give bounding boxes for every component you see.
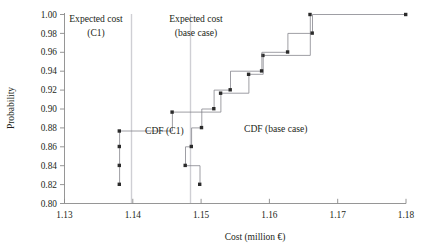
data-point [200,126,203,129]
annotation-cdf-base-case: CDF (base case) [244,123,307,135]
series-cdf-base-case [184,13,408,186]
y-tick-label: 0.92 [41,85,58,95]
annotation-expected-cost-c1-line1: Expected cost [69,13,123,24]
annotations: Expected cost (C1) Expected cost (base c… [69,13,307,137]
y-tick-labels: 0.80 0.82 0.84 0.86 0.88 0.90 0.92 0.94 … [41,10,58,209]
cdf-base-path [186,15,407,185]
x-axis-title: Cost (million €) [225,232,286,243]
y-tick-label: 0.98 [41,29,58,39]
x-tick-label: 1.16 [261,210,278,220]
data-point [404,13,407,16]
data-point [118,183,121,186]
x-tick-label: 1.14 [125,210,142,220]
cdf-c1-path [120,15,311,185]
annotation-expected-cost-base-line1: Expected cost [169,13,223,24]
y-tick-label: 0.82 [41,180,58,190]
annotation-expected-cost-base-line2: (base case) [175,27,217,39]
series-cdf-c1 [118,13,312,186]
axes-group: 0.80 0.82 0.84 0.86 0.88 0.90 0.92 0.94 … [6,10,414,243]
x-ticks [65,199,407,204]
reference-lines [132,14,191,203]
y-ticks [60,15,65,204]
data-point [286,50,289,53]
y-tick-label: 0.86 [41,142,58,152]
data-point [190,145,193,148]
data-point [247,73,250,76]
data-point [118,129,121,132]
y-tick-label: 0.90 [41,104,58,114]
y-tick-label: 0.84 [41,161,58,171]
y-tick-label: 1.00 [41,10,58,20]
y-tick-label: 0.94 [41,66,58,76]
x-tick-label: 1.17 [330,210,347,220]
data-point [198,183,201,186]
annotation-cdf-c1: CDF (C1) [145,125,184,137]
x-tick-label: 1.15 [193,210,210,220]
data-point [311,31,314,34]
x-tick-labels: 1.13 1.14 1.15 1.16 1.17 1.18 [56,210,414,220]
data-point [229,88,232,91]
x-tick-label: 1.13 [56,210,73,220]
data-point [118,164,121,167]
data-point [219,92,222,95]
cdf-step-chart: 0.80 0.82 0.84 0.86 0.88 0.90 0.92 0.94 … [0,0,424,249]
chart-figure: 0.80 0.82 0.84 0.86 0.88 0.90 0.92 0.94 … [0,0,424,249]
data-point [170,110,173,113]
y-axis-title: Probability [6,87,16,129]
data-point [260,69,263,72]
y-tick-label: 0.96 [41,47,58,57]
annotation-expected-cost-c1-line2: (C1) [87,27,105,39]
data-point [308,13,311,16]
x-tick-label: 1.18 [398,210,415,220]
data-point [184,164,187,167]
y-tick-label: 0.80 [41,199,58,209]
data-point [212,107,215,110]
data-point [118,145,121,148]
y-tick-label: 0.88 [41,123,58,133]
